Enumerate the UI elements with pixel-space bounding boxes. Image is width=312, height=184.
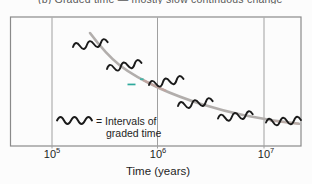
x-tick-1e7-exponent: 7 xyxy=(270,146,274,155)
legend-wavy-line-icon xyxy=(57,117,92,124)
x-tick-1e7: 107 xyxy=(244,148,288,160)
figure-graded-time-chart: (b) Graded time — mostly slow continuous… xyxy=(0,0,312,184)
x-tick-1e5: 105 xyxy=(30,148,74,160)
graded-interval-squiggle-4 xyxy=(178,98,214,110)
legend-label-line1: = Intervals of xyxy=(96,115,156,127)
x-tick-1e5-exponent: 5 xyxy=(56,146,60,155)
teal-mark-small xyxy=(140,78,144,80)
teal-mark xyxy=(128,84,136,86)
x-tick-1e6: 106 xyxy=(136,148,180,160)
x-tick-1e6-exponent: 6 xyxy=(162,146,166,155)
legend-label-line2: graded time xyxy=(106,127,161,139)
equilibrium-curve xyxy=(90,33,299,124)
x-axis-label: Time (years) xyxy=(98,165,218,177)
graded-interval-squiggle-2 xyxy=(106,59,142,72)
